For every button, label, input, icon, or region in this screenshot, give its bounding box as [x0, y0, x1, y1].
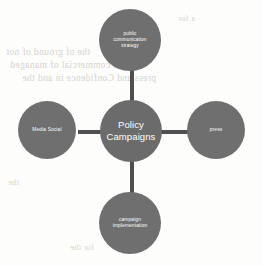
node-label: campaign implementation: [108, 217, 153, 229]
node-label-line: communication: [114, 37, 147, 42]
node-public-communication-strategy[interactable]: public communication strategy: [99, 9, 161, 71]
connector-right: [161, 130, 188, 134]
connector-bottom: [130, 161, 134, 193]
node-label-line: Policy: [118, 119, 144, 130]
connector-left: [78, 130, 102, 134]
node-press[interactable]: press: [187, 101, 245, 159]
scanned-page: the of ground of not in a commercial of …: [0, 0, 263, 266]
hub-and-spoke-diagram: public communication strategy Media Soci…: [0, 0, 263, 266]
node-label-line: campaign: [119, 217, 141, 222]
node-label-line: Media Social: [32, 127, 61, 132]
connector-top: [130, 70, 134, 102]
node-label: press: [205, 127, 227, 133]
node-policy-campaigns[interactable]: Policy Campaigns: [100, 100, 162, 162]
node-label-line: public: [124, 31, 137, 36]
node-label-line: press: [210, 127, 222, 132]
node-label-line: implementation: [113, 223, 148, 228]
node-campaign-implementation[interactable]: campaign implementation: [99, 192, 161, 254]
node-media-social[interactable]: Media Social: [18, 101, 76, 159]
node-label-line: Campaigns: [107, 131, 156, 142]
node-label: public communication strategy: [109, 31, 152, 48]
node-label-line: strategy: [121, 43, 139, 48]
node-label: Media Social: [27, 127, 66, 133]
node-label: Policy Campaigns: [102, 119, 161, 143]
